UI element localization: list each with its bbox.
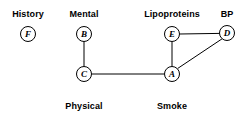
node-letter-a: A: [168, 69, 175, 79]
node-letter-c: C: [81, 69, 88, 79]
label-smoke: Smoke: [157, 101, 187, 111]
node-physical-c[interactable]: C: [77, 67, 92, 82]
label-mental: Mental: [69, 9, 98, 19]
node-bp-d[interactable]: D: [220, 26, 235, 41]
graph-diagram-canvas: F B C A E D Histor: [0, 0, 252, 121]
node-smoke-a[interactable]: A: [165, 67, 180, 82]
node-letter-b: B: [80, 29, 87, 39]
node-lipoproteins-e[interactable]: E: [165, 27, 180, 42]
node-letter-e: E: [168, 29, 175, 39]
label-lipoproteins: Lipoproteins: [144, 9, 200, 19]
edge-group: [84, 33, 222, 74]
node-mental-b[interactable]: B: [77, 27, 92, 42]
label-bp: BP: [221, 9, 234, 19]
label-history: History: [12, 9, 44, 19]
node-letter-d: D: [223, 28, 231, 38]
node-letter-f: F: [24, 29, 31, 39]
edge-lipoproteins-bp: [180, 33, 220, 34]
label-physical: Physical: [65, 101, 102, 111]
edge-smoke-bp: [178, 39, 223, 69]
node-history-f[interactable]: F: [21, 27, 36, 42]
